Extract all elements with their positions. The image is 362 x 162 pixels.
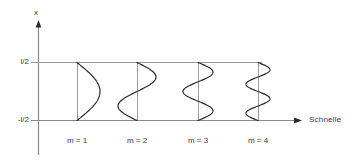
x-axis-arrowhead bbox=[294, 118, 302, 124]
y-tick-label-bottom: -l/2 bbox=[0, 115, 29, 124]
mode-label-m3: m = 3 bbox=[168, 136, 228, 145]
y-axis-label: x bbox=[34, 8, 38, 17]
y-axis-arrowhead bbox=[36, 20, 42, 28]
mode-label-m2: m = 2 bbox=[107, 136, 167, 145]
standing-wave-mode-diagram: x Schnelle l/2 -l/2 m = 1m = 2m = 3m = 4 bbox=[0, 0, 362, 162]
mode-curve bbox=[77, 63, 100, 121]
y-tick-label-top: l/2 bbox=[0, 57, 29, 66]
x-axis-label: Schnelle bbox=[309, 115, 341, 124]
mode-label-m1: m = 1 bbox=[47, 136, 107, 145]
mode-label-m4: m = 4 bbox=[228, 136, 288, 145]
mode-curves-group bbox=[77, 63, 270, 121]
